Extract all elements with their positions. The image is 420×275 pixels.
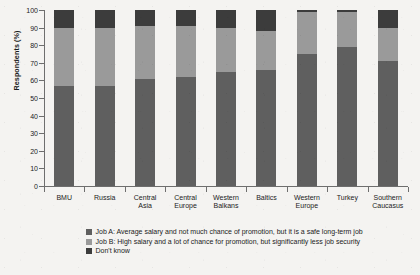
bar-segment bbox=[256, 70, 276, 186]
category-label-line: Western bbox=[206, 194, 246, 202]
legend-label: Job B: High salary and a lot of chance f… bbox=[96, 238, 361, 246]
category-label-line: Russia bbox=[84, 194, 124, 202]
bar-segment bbox=[135, 10, 155, 26]
x-axis-category-label: BMU bbox=[44, 194, 84, 202]
chart-legend: Job A: Average salary and not much chanc… bbox=[86, 228, 416, 257]
stacked-bar-chart: Respondents (%) 0102030405060708090100 B… bbox=[0, 0, 420, 275]
x-axis-category-label: Turkey bbox=[327, 194, 367, 202]
plot-area: Respondents (%) 0102030405060708090100 bbox=[0, 0, 420, 196]
bar-segment bbox=[176, 77, 196, 186]
x-axis-category-labels: BMURussiaCentralAsiaCentralEuropeWestern… bbox=[0, 194, 420, 224]
legend-item[interactable]: Job B: High salary and a lot of chance f… bbox=[86, 238, 416, 246]
category-label-line: Turkey bbox=[327, 194, 367, 202]
bar-segment bbox=[256, 31, 276, 70]
bar-baltics bbox=[256, 10, 276, 186]
bar-segment bbox=[216, 10, 236, 28]
bar-segment bbox=[297, 54, 317, 186]
x-axis-category-label: Russia bbox=[84, 194, 124, 202]
bar-segment bbox=[95, 10, 115, 28]
bar-southern-caucasus bbox=[378, 10, 398, 186]
category-label-line: Asia bbox=[125, 202, 165, 210]
bar-central-europe bbox=[176, 10, 196, 186]
category-label-line: BMU bbox=[44, 194, 84, 202]
bar-segment bbox=[216, 28, 236, 72]
bar-segment bbox=[297, 12, 317, 54]
x-axis-category-label: CentralAsia bbox=[125, 194, 165, 211]
bar-russia bbox=[95, 10, 115, 186]
bar-segment bbox=[176, 26, 196, 77]
legend-label: Job A: Average salary and not much chanc… bbox=[96, 228, 363, 236]
legend-swatch-icon bbox=[86, 229, 92, 235]
category-label-line: Central bbox=[125, 194, 165, 202]
bar-segment bbox=[378, 28, 398, 61]
category-label-line: Southern bbox=[368, 194, 408, 202]
legend-item[interactable]: Job A: Average salary and not much chanc… bbox=[86, 228, 416, 236]
bar-segment bbox=[135, 79, 155, 186]
legend-label: Don't know bbox=[96, 247, 130, 255]
bar-segment bbox=[54, 86, 74, 186]
bar-segment bbox=[176, 10, 196, 26]
x-axis-category-label: SouthernCaucasus bbox=[368, 194, 408, 211]
bar-western-europe bbox=[297, 10, 317, 186]
bar-segment bbox=[95, 28, 115, 86]
legend-swatch-icon bbox=[86, 239, 92, 245]
bar-central-asia bbox=[135, 10, 155, 186]
bar-segment bbox=[337, 47, 357, 186]
bar-segment bbox=[54, 10, 74, 28]
bar-segment bbox=[54, 28, 74, 86]
category-label-line: Caucasus bbox=[368, 202, 408, 210]
category-label-line: Balkans bbox=[206, 202, 246, 210]
bar-segment bbox=[337, 10, 357, 12]
x-axis-category-label: Baltics bbox=[246, 194, 286, 202]
bar-turkey bbox=[337, 10, 357, 186]
x-axis-category-label: WesternEurope bbox=[287, 194, 327, 211]
bar-segment bbox=[216, 72, 236, 186]
bar-bmu bbox=[54, 10, 74, 186]
bar-segment bbox=[135, 26, 155, 79]
x-axis-category-label: CentralEurope bbox=[165, 194, 205, 211]
bar-segment bbox=[378, 10, 398, 28]
bar-western-balkans bbox=[216, 10, 236, 186]
x-axis-category-label: WesternBalkans bbox=[206, 194, 246, 211]
bar-segment bbox=[378, 61, 398, 186]
legend-swatch-icon bbox=[86, 248, 92, 254]
category-label-line: Europe bbox=[165, 202, 205, 210]
bar-segment bbox=[297, 10, 317, 12]
category-label-line: Europe bbox=[287, 202, 327, 210]
bar-segment bbox=[95, 86, 115, 186]
category-label-line: Baltics bbox=[246, 194, 286, 202]
legend-item[interactable]: Don't know bbox=[86, 247, 416, 255]
bar-segment bbox=[337, 12, 357, 47]
bars-layer bbox=[0, 0, 420, 196]
bar-segment bbox=[256, 10, 276, 31]
category-label-line: Central bbox=[165, 194, 205, 202]
category-label-line: Western bbox=[287, 194, 327, 202]
